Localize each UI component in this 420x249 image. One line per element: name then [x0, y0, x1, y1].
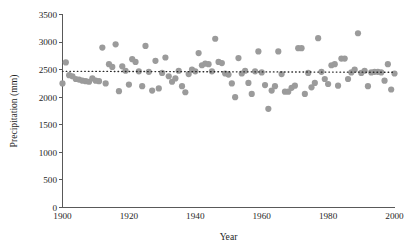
y-axis-title: Precipitation (mm) [8, 75, 20, 148]
data-point [162, 54, 168, 60]
data-point [335, 83, 341, 89]
data-point [262, 82, 268, 88]
data-point [156, 85, 162, 91]
data-point [122, 68, 128, 74]
data-point [179, 83, 185, 89]
data-point [388, 86, 394, 92]
data-point [229, 80, 235, 86]
data-point [126, 81, 132, 87]
chart-canvas: 0500100015002000250030003500190019201940… [0, 0, 420, 249]
data-point [298, 45, 304, 51]
data-point [305, 70, 311, 76]
data-point [302, 91, 308, 97]
data-point [96, 78, 102, 84]
data-point [63, 59, 69, 65]
data-point [166, 73, 172, 79]
data-point [196, 50, 202, 56]
data-point [255, 48, 261, 54]
data-point [139, 83, 145, 89]
precipitation-scatter-figure: 0500100015002000250030003500190019201940… [0, 0, 420, 249]
y-tick-label: 3000 [39, 37, 58, 47]
data-point [325, 81, 331, 87]
x-tick-label: 1980 [319, 211, 338, 221]
x-tick-label: 2000 [385, 211, 404, 221]
data-point [312, 80, 318, 86]
data-point [275, 48, 281, 54]
data-point [342, 56, 348, 62]
x-tick-label: 1900 [53, 211, 72, 221]
data-point [332, 61, 338, 67]
data-point [116, 88, 122, 94]
x-tick-label: 1940 [186, 211, 205, 221]
trend-line [63, 71, 395, 72]
data-point [212, 36, 218, 42]
x-axis-title: Year [220, 231, 238, 242]
data-point [205, 61, 211, 67]
data-point [292, 83, 298, 89]
y-tick-label: 1000 [39, 148, 58, 158]
data-point [152, 58, 158, 64]
data-point [232, 94, 238, 100]
y-tick-label: 500 [43, 175, 57, 185]
data-point [381, 78, 387, 84]
data-point [235, 55, 241, 61]
data-point [182, 89, 188, 95]
data-point [172, 75, 178, 81]
data-point [355, 30, 361, 36]
data-point [362, 68, 368, 74]
data-point [391, 70, 397, 76]
y-tick-label: 3500 [39, 10, 58, 20]
data-point [249, 91, 255, 97]
data-point [219, 60, 225, 66]
x-tick-label: 1920 [120, 211, 139, 221]
x-tick-label: 1960 [253, 211, 272, 221]
data-point [315, 35, 321, 41]
data-point [109, 64, 115, 70]
data-point [113, 41, 119, 47]
data-point [272, 83, 278, 89]
data-point [159, 70, 165, 76]
y-tick-label: 2500 [39, 65, 58, 75]
data-point [176, 68, 182, 74]
data-point [345, 76, 351, 82]
data-point [99, 44, 105, 50]
data-point [142, 43, 148, 49]
data-point [245, 80, 251, 86]
data-point [265, 106, 271, 112]
data-point [59, 80, 65, 86]
data-point [242, 68, 248, 74]
y-tick-label: 2000 [39, 93, 58, 103]
data-point [385, 61, 391, 67]
data-point [149, 88, 155, 94]
data-point [132, 59, 138, 65]
data-point [225, 72, 231, 78]
y-tick-label: 1500 [39, 120, 58, 130]
data-point [103, 80, 109, 86]
data-point [365, 83, 371, 89]
